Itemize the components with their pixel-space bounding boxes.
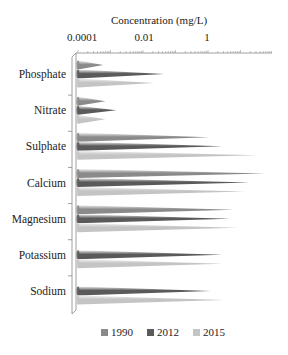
legend-label: 1990 (111, 326, 133, 338)
category-label: Phosphate (19, 68, 66, 80)
legend-label: 2012 (157, 326, 179, 338)
category-label: Sulphate (26, 140, 66, 152)
legend-swatch (101, 329, 108, 336)
legend-item-2012: 2012 (147, 326, 179, 338)
category-label: Nitrate (34, 104, 66, 116)
category-label: Magnesium (12, 213, 66, 225)
legend: 1990 2012 2015 (0, 326, 288, 338)
legend-label: 2015 (203, 326, 225, 338)
legend-item-1990: 1990 (101, 326, 133, 338)
category-label: Potassium (19, 249, 66, 261)
legend-swatch (193, 329, 200, 336)
legend-item-2015: 2015 (193, 326, 225, 338)
legend-swatch (147, 329, 154, 336)
category-label: Calcium (27, 177, 66, 189)
category-label: Sodium (30, 285, 66, 297)
